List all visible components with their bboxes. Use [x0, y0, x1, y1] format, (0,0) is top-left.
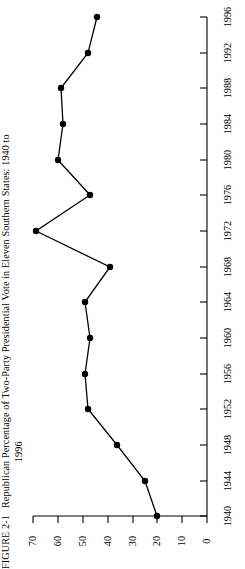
year-axis-tick-label: 1944 [223, 466, 233, 496]
year-axis-tick-label: 1952 [223, 394, 233, 424]
data-point-1980 [55, 157, 61, 163]
value-axis-ticks [33, 516, 207, 523]
value-axis-tick-label: 70 [28, 530, 38, 552]
data-point-1996 [94, 14, 100, 20]
year-axis-tick-label: 1968 [223, 252, 233, 282]
data-point-1964 [82, 299, 88, 305]
value-axis-tick-label: 50 [78, 530, 88, 552]
data-point-1948 [114, 442, 120, 448]
figure-container: FIGURE 2-1 Republican Percentage of Two-… [0, 0, 245, 569]
data-point-1952 [85, 406, 91, 412]
chart-svg [0, 0, 245, 569]
data-point-1960 [87, 335, 93, 341]
data-point-1988 [58, 85, 64, 91]
year-axis-tick-label: 1996 [223, 2, 233, 32]
data-point-markers [33, 14, 160, 519]
year-axis-tick-label: 1984 [223, 109, 233, 139]
value-axis-tick-label: 30 [128, 530, 138, 552]
year-axis-tick-label: 1964 [223, 287, 233, 317]
value-axis-tick-label: 60 [53, 530, 63, 552]
data-point-1972 [33, 228, 39, 234]
data-point-1976 [87, 192, 93, 198]
year-axis-tick-label: 1940 [223, 501, 233, 531]
year-axis-tick-label: 1988 [223, 73, 233, 103]
data-point-1940 [154, 513, 160, 519]
value-axis-tick-label: 10 [177, 530, 187, 552]
line-chart-plot: 706050403020100 199619921988198419801976… [0, 0, 245, 569]
year-axis-tick-label: 1992 [223, 38, 233, 68]
value-axis-tick-label: 40 [103, 530, 113, 552]
year-axis-tick-label: 1956 [223, 359, 233, 389]
year-axis-tick-label: 1972 [223, 216, 233, 246]
value-axis-tick-label: 20 [152, 530, 162, 552]
data-point-1984 [60, 121, 66, 127]
data-point-1956 [82, 371, 88, 377]
year-axis-tick-label: 1980 [223, 145, 233, 175]
data-series-line [36, 17, 157, 516]
value-axis-tick-label: 0 [202, 530, 212, 552]
year-axis-tick-label: 1948 [223, 430, 233, 460]
data-point-1968 [107, 264, 113, 270]
data-point-1944 [142, 478, 148, 484]
year-axis-tick-label: 1976 [223, 180, 233, 210]
data-point-1992 [85, 50, 91, 56]
year-axis-tick-label: 1960 [223, 323, 233, 353]
year-axis-ticks [200, 17, 207, 516]
